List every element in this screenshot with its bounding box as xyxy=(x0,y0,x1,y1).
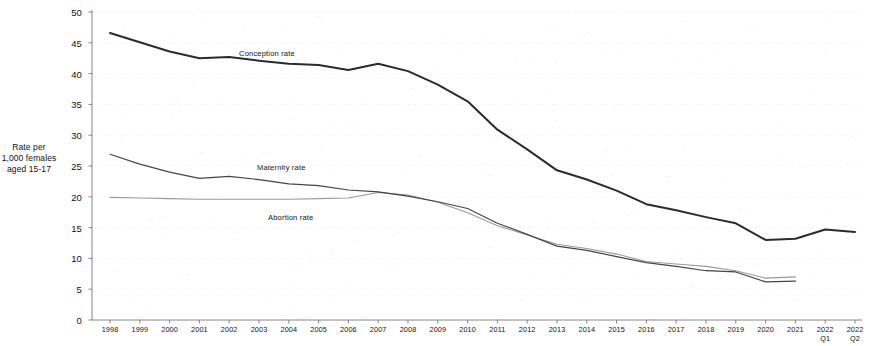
scan-speck xyxy=(385,266,389,267)
scan-speck xyxy=(732,163,735,164)
scan-speck xyxy=(782,159,785,160)
scan-speck xyxy=(819,252,823,253)
scan-speck xyxy=(309,254,311,255)
scan-speck xyxy=(387,104,392,105)
scan-speck xyxy=(131,117,133,118)
scan-speck xyxy=(185,274,189,275)
scan-speck xyxy=(192,15,197,16)
scan-speck xyxy=(586,184,587,185)
scan-speck xyxy=(781,199,786,200)
scan-speck xyxy=(635,38,639,39)
scan-speck xyxy=(126,147,128,148)
scan-speck xyxy=(683,317,686,318)
scan-speck xyxy=(296,270,302,271)
scan-speck xyxy=(123,25,126,26)
scan-speck xyxy=(682,190,683,191)
scan-speck xyxy=(362,76,365,77)
scan-speck xyxy=(283,222,289,223)
scan-speck xyxy=(617,49,622,50)
scan-speck xyxy=(716,51,720,52)
scan-speck xyxy=(656,136,657,137)
scan-speck xyxy=(240,153,243,154)
scan-speck xyxy=(126,298,132,299)
scan-speck xyxy=(236,233,240,234)
scan-speck xyxy=(533,57,537,58)
scan-speck xyxy=(665,176,671,177)
scan-speck xyxy=(139,12,141,13)
scan-speck xyxy=(282,169,285,170)
scan-speck xyxy=(591,223,595,224)
scan-speck xyxy=(859,245,860,246)
series-line-maternity-rate xyxy=(110,154,795,282)
scan-speck xyxy=(199,153,204,154)
scan-speck xyxy=(112,27,113,28)
scan-speck xyxy=(613,110,617,111)
scan-speck xyxy=(635,275,638,276)
scan-speck xyxy=(159,236,164,237)
scan-speck xyxy=(573,172,576,173)
scan-speck xyxy=(139,316,142,317)
scan-speck xyxy=(587,295,593,296)
scan-speck xyxy=(599,50,604,51)
scan-speck xyxy=(285,316,288,317)
gridlines xyxy=(92,12,862,289)
scan-speck xyxy=(660,61,662,62)
scan-speck xyxy=(759,15,762,16)
scan-speck xyxy=(409,88,414,89)
scan-speck xyxy=(629,35,632,36)
scan-speck xyxy=(624,147,628,148)
scan-speck xyxy=(403,169,407,170)
scan-speck xyxy=(798,166,803,167)
scan-speck xyxy=(371,166,376,167)
scan-speck xyxy=(380,13,381,14)
scan-speck xyxy=(167,79,168,80)
scan-speck xyxy=(603,153,605,154)
scan-speck xyxy=(306,189,310,190)
scan-speck xyxy=(256,112,259,113)
scan-speck xyxy=(329,251,333,252)
scan-speck xyxy=(812,279,816,280)
scan-speck xyxy=(823,171,825,172)
scan-speck xyxy=(548,89,552,90)
scan-speck xyxy=(577,38,580,39)
scan-speck xyxy=(570,224,575,225)
scan-speck xyxy=(170,115,173,116)
scan-speck xyxy=(547,228,552,229)
scan-speck xyxy=(645,294,648,295)
scan-speck xyxy=(685,76,689,77)
scan-speck xyxy=(217,80,218,81)
scan-speck xyxy=(395,232,401,233)
scan-speck xyxy=(664,39,666,40)
scan-speck xyxy=(351,126,356,127)
scan-speck xyxy=(375,61,376,62)
scan-speck xyxy=(328,173,331,174)
scan-speck xyxy=(860,214,862,215)
scan-speck xyxy=(112,270,117,271)
scan-speck xyxy=(141,59,146,60)
scan-speck xyxy=(172,45,173,46)
scan-speck xyxy=(329,123,334,124)
scan-speck xyxy=(147,220,153,221)
scan-speck xyxy=(627,215,631,216)
scan-speck xyxy=(488,247,493,248)
scan-speck xyxy=(93,88,97,89)
scan-speck xyxy=(362,318,363,319)
scan-speck xyxy=(663,32,667,33)
scan-speck xyxy=(397,264,401,265)
scan-speck xyxy=(583,184,588,185)
scan-speck xyxy=(207,29,208,30)
scan-speck xyxy=(555,121,560,122)
scan-speck xyxy=(324,46,329,47)
scan-speck xyxy=(288,271,293,272)
scan-speck xyxy=(578,222,580,223)
scan-speck xyxy=(529,274,534,275)
scan-speck xyxy=(552,104,556,105)
scan-speck xyxy=(849,136,854,137)
scan-speck xyxy=(486,33,489,34)
scan-speck xyxy=(288,102,293,103)
scan-speck xyxy=(396,130,399,131)
scan-speck xyxy=(293,304,295,305)
scan-speck xyxy=(514,61,518,62)
scan-speck xyxy=(831,181,834,182)
scan-speck xyxy=(418,156,423,157)
